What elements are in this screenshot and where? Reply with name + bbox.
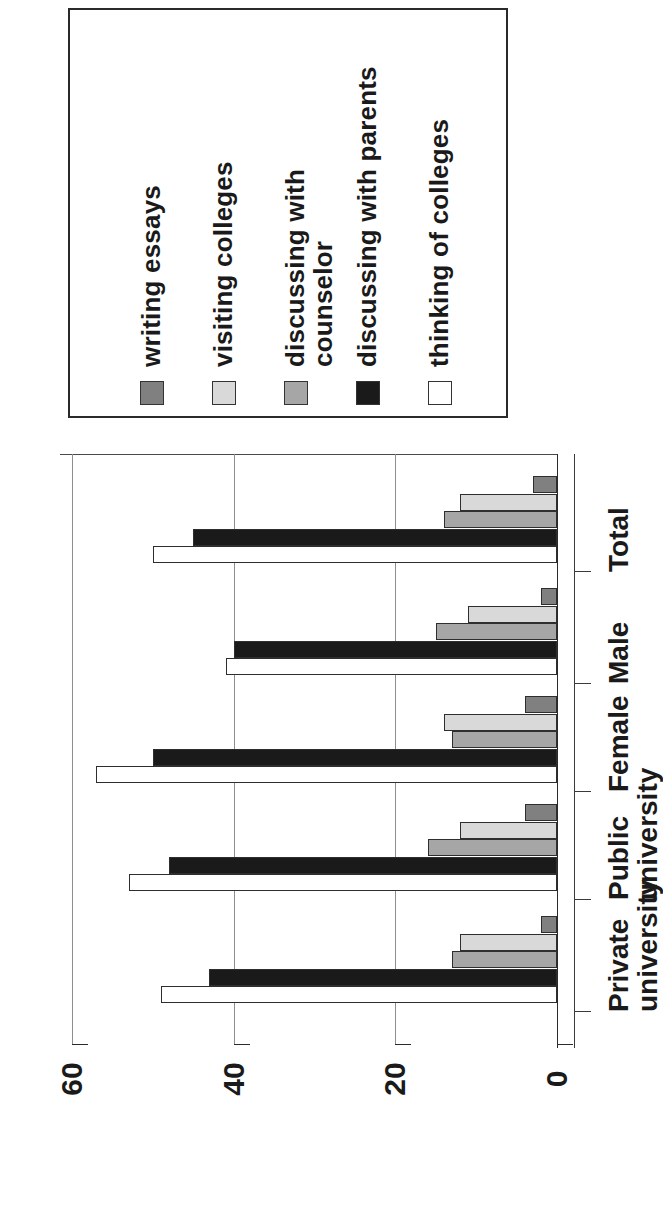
legend-swatch-discussing-with-parents (356, 381, 380, 405)
bar-visiting-colleges-public-university (460, 822, 557, 839)
value-tick-0 (557, 1044, 573, 1045)
value-tick-label-0: 0 (540, 1051, 574, 1107)
bar-visiting-colleges-male (468, 606, 557, 623)
bar-chart-plot: 0204060 TotalMaleFemalePublic university… (0, 440, 613, 1052)
bar-discussing-with-parents-public-university (169, 857, 557, 874)
category-tick (574, 1011, 591, 1012)
legend-item: discussing with parents (354, 66, 418, 405)
legend-item: writing essays (138, 185, 202, 405)
legend-swatch-writing-essays (140, 381, 164, 405)
category-tick (574, 791, 591, 792)
legend-swatch-discussing-with-counselor (284, 381, 308, 405)
bar-discussing-with-counselor-public-university (428, 839, 557, 856)
chart-legend: writing essays visiting colleges discuss… (68, 8, 508, 418)
category-tick (574, 683, 591, 684)
bar-thinking-of-colleges-male (226, 658, 557, 675)
legend-label-visiting-colleges: visiting colleges (210, 161, 238, 367)
legend-rotated-content: writing essays visiting colleges discuss… (78, 15, 498, 411)
legend-item: discussing with counselor (282, 169, 346, 405)
legend-swatch-thinking-of-colleges (428, 381, 452, 405)
bar-thinking-of-colleges-private-university (161, 986, 557, 1003)
value-tick-label-40: 40 (217, 1051, 251, 1107)
legend-item: thinking of colleges (426, 119, 490, 405)
bar-thinking-of-colleges-total (153, 546, 557, 563)
value-tick-60 (72, 1044, 88, 1045)
bar-discussing-with-parents-male (234, 641, 557, 658)
bar-discussing-with-counselor-male (436, 623, 557, 640)
bar-writing-essays-male (541, 588, 557, 605)
legend-label-discussing-with-parents: discussing with parents (354, 66, 382, 367)
bar-discussing-with-counselor-female (452, 731, 557, 748)
category-label-private-university: Private university (604, 879, 662, 1011)
bar-thinking-of-colleges-public-university (129, 874, 557, 891)
category-label-total: Total (604, 507, 633, 572)
legend-swatch-visiting-colleges (212, 381, 236, 405)
bar-discussing-with-counselor-private-university (452, 951, 557, 968)
bar-writing-essays-total (533, 476, 557, 493)
bar-discussing-with-counselor-total (444, 511, 557, 528)
bar-visiting-colleges-total (460, 494, 557, 511)
category-label-male: Male (604, 621, 633, 683)
bar-writing-essays-private-university (541, 916, 557, 933)
bar-writing-essays-public-university (525, 804, 557, 821)
category-tick (574, 899, 591, 900)
value-axis-line (557, 454, 558, 1048)
bar-discussing-with-parents-total (193, 529, 557, 546)
legend-label-discussing-with-counselor: discussing with counselor (282, 169, 337, 367)
legend-item: visiting colleges (210, 161, 274, 405)
bar-discussing-with-parents-female (153, 749, 557, 766)
value-tick-40 (234, 1044, 250, 1045)
legend-label-thinking-of-colleges: thinking of colleges (426, 119, 454, 367)
bar-writing-essays-female (525, 696, 557, 713)
bar-visiting-colleges-female (444, 714, 557, 731)
legend-label-writing-essays: writing essays (138, 185, 166, 367)
bar-thinking-of-colleges-female (96, 766, 557, 783)
bar-visiting-colleges-private-university (460, 934, 557, 951)
category-axis-line (574, 454, 575, 1048)
gridline-60 (72, 454, 73, 1044)
category-tick (574, 571, 591, 572)
bar-discussing-with-parents-private-university (209, 969, 557, 986)
value-tick-label-20: 20 (378, 1051, 412, 1107)
value-tick-20 (395, 1044, 411, 1045)
value-tick-label-60: 60 (55, 1051, 89, 1107)
